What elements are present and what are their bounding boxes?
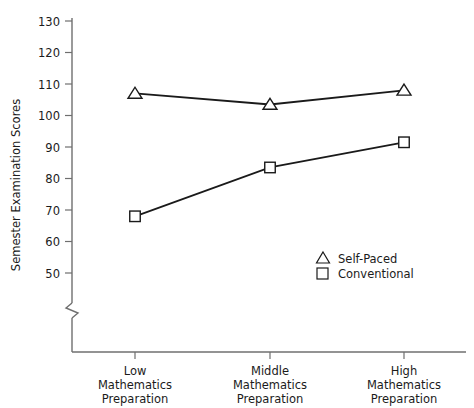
x-category-low-line2: Mathematics [98,378,172,392]
triangle-marker-icon [317,252,330,263]
legend-item-conventional: Conventional [317,267,414,281]
y-tick-label-60: 60 [45,235,60,249]
x-category-middle-line1: Middle [251,364,289,378]
y-axis-tick-labels: 130 120 110 100 90 80 70 60 50 [38,15,60,281]
x-category-high-line1: High [391,364,417,378]
x-category-high-line3: Preparation [371,392,437,406]
y-axis-break-icon [66,303,78,318]
data-series-layer [128,84,411,221]
y-axis-title: Semester Examination Scores [9,99,23,271]
square-marker-icon [265,162,276,173]
series-conventional [130,137,410,222]
x-category-high-line2: Mathematics [367,378,441,392]
x-category-label-low: Low Mathematics Preparation [98,364,172,406]
triangle-marker-icon [128,87,142,98]
y-tick-label-80: 80 [45,172,60,186]
y-tick-label-100: 100 [38,109,60,123]
x-category-middle-line3: Preparation [237,392,303,406]
y-tick-label-110: 110 [38,78,60,92]
legend: Self-Paced Conventional [317,252,414,281]
line-chart: 130 120 110 100 90 80 70 60 50 Semester … [0,0,474,408]
y-tick-label-70: 70 [45,204,60,218]
x-category-label-high: High Mathematics Preparation [367,364,441,406]
x-category-low-line3: Preparation [102,392,168,406]
legend-item-self-paced: Self-Paced [317,252,398,266]
y-tick-label-120: 120 [38,46,60,60]
y-axis-ticks [65,21,72,273]
series-line [135,142,404,216]
series-self-paced [128,84,411,109]
y-tick-label-90: 90 [45,141,60,155]
triangle-marker-icon [397,84,411,95]
x-category-label-middle: Middle Mathematics Preparation [233,364,307,406]
square-marker-icon [399,137,410,148]
legend-label-self-paced: Self-Paced [338,252,397,266]
y-tick-label-130: 130 [38,15,60,29]
x-category-low-line1: Low [124,364,147,378]
square-marker-icon [317,268,328,279]
y-tick-label-50: 50 [45,267,60,281]
legend-label-conventional: Conventional [338,267,414,281]
square-marker-icon [130,211,141,222]
x-axis-category-labels: Low Mathematics Preparation Middle Mathe… [98,364,441,406]
x-axis-ticks [135,352,404,359]
x-category-middle-line2: Mathematics [233,378,307,392]
chart-container: 130 120 110 100 90 80 70 60 50 Semester … [0,0,474,408]
